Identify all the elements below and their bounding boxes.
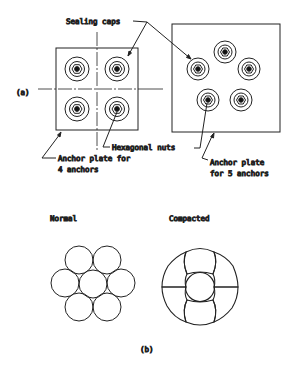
plate5-label-line2: for 5 anchors [210,169,269,178]
plate5-leader [202,133,214,160]
anchor-plate-5 [150,24,280,132]
anchor-cap [105,57,129,81]
anchor-cap [187,58,209,80]
anchor-cap [230,89,252,111]
normal-strand [51,246,135,321]
part-b-label: (b) [140,345,154,354]
normal-label: Normal [50,214,77,223]
compacted-strand [162,249,238,326]
anchor-cap [197,89,219,111]
anchor-cap [65,97,89,121]
sealing-caps-label: Sealing caps [66,17,120,26]
sealing-caps-leader [128,21,191,59]
anchor-strand-figure: (a) Sealing caps [0,0,292,366]
anchor-cap [214,41,236,63]
hexagonal-nuts-label: Hexagonal nuts [112,143,175,152]
anchor-cap [65,57,89,81]
anchor-cap [105,97,129,121]
anchor-plate-4 [38,32,150,150]
plate4-label-line2: 4 anchors [58,165,99,174]
part-a-label: (a) [16,88,30,97]
plate4-label-line1: Anchor plate for [58,154,131,163]
anchor-cap [238,58,260,80]
plate5-label-line1: Anchor plate [210,158,265,167]
compacted-label: Compacted [169,214,210,223]
